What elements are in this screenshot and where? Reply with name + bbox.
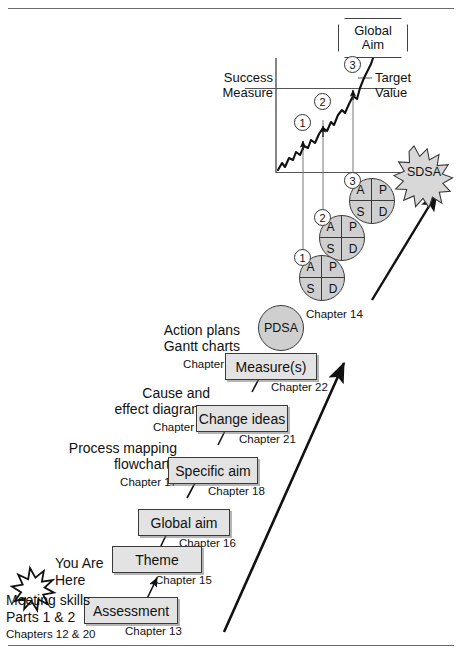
diagram-canvas: Global Aim Success Measure Target Value … [0, 0, 462, 655]
step-chapter-specific-aim: Chapter 18 [208, 485, 265, 498]
pdsa-2-do: D [342, 238, 364, 260]
pdsa-badge-2: 2 [314, 209, 331, 226]
global-aim-line-1: Global [354, 24, 392, 38]
step-chapter-change-ideas: Chapter 21 [239, 433, 296, 446]
run-point-badge-1: 1 [294, 114, 311, 131]
global-aim-line-2: Aim [362, 38, 384, 52]
meeting-skills-line-1: Meeting skills [6, 592, 90, 608]
side-note-process-mapping-chapter: Chapter 17 [52, 476, 177, 489]
step-chapter-assessment: Chapter 13 [125, 625, 182, 638]
pdsa-2-plan: P [342, 216, 364, 238]
pdsa-1-study: S [300, 278, 322, 300]
meeting-skills-line-2: Parts 1 & 2 [6, 609, 75, 625]
global-aim-banner: Global Aim [338, 18, 408, 58]
step-box-specific-aim[interactable]: Specific aim [168, 457, 258, 484]
run-point-badge-2: 2 [314, 93, 331, 110]
pdsa-3-do: D [372, 201, 394, 223]
pdsa-3-plan: P [372, 179, 394, 201]
side-note-cause-effect-chapter: Chapter 19 [90, 421, 210, 434]
step-box-change-ideas[interactable]: Change ideas [196, 405, 288, 432]
step-box-theme[interactable]: Theme [112, 546, 202, 573]
target-value-label: Target Value [375, 70, 411, 100]
pdsa-1-plan: P [322, 256, 344, 278]
side-note-process-mapping: Process mapping flowcharts [52, 440, 177, 472]
pdsa-badge-3: 3 [344, 172, 361, 189]
step-box-global-aim[interactable]: Global aim [138, 509, 230, 536]
step-chapter-theme: Chapter 15 [155, 574, 212, 587]
sdsa-burst: SDSA [395, 160, 453, 184]
success-measure-label: Success Measure [215, 70, 273, 100]
step-chapter-measures: Chapter 22 [271, 381, 328, 394]
step-box-assessment[interactable]: Assessment [84, 597, 178, 624]
chapter-14-label: Chapter 14 [306, 308, 363, 321]
pdsa-bubble: PDSA [258, 305, 304, 351]
side-note-action-plans: Action plans Gantt charts [140, 322, 240, 354]
you-are-here-line-1: You Are [55, 555, 104, 571]
pdsa-1-do: D [322, 278, 344, 300]
meeting-skills-chapters: Chapters 12 & 20 [6, 628, 96, 641]
sdsa-label: SDSA [407, 165, 441, 179]
run-point-badge-3: 3 [344, 56, 361, 73]
you-are-here-line-2: Here [55, 572, 85, 588]
pdsa-badge-1: 1 [294, 249, 311, 266]
side-note-cause-effect: Cause and effect diagrams [90, 385, 210, 417]
step-box-measures[interactable]: Measure(s) [225, 353, 317, 380]
